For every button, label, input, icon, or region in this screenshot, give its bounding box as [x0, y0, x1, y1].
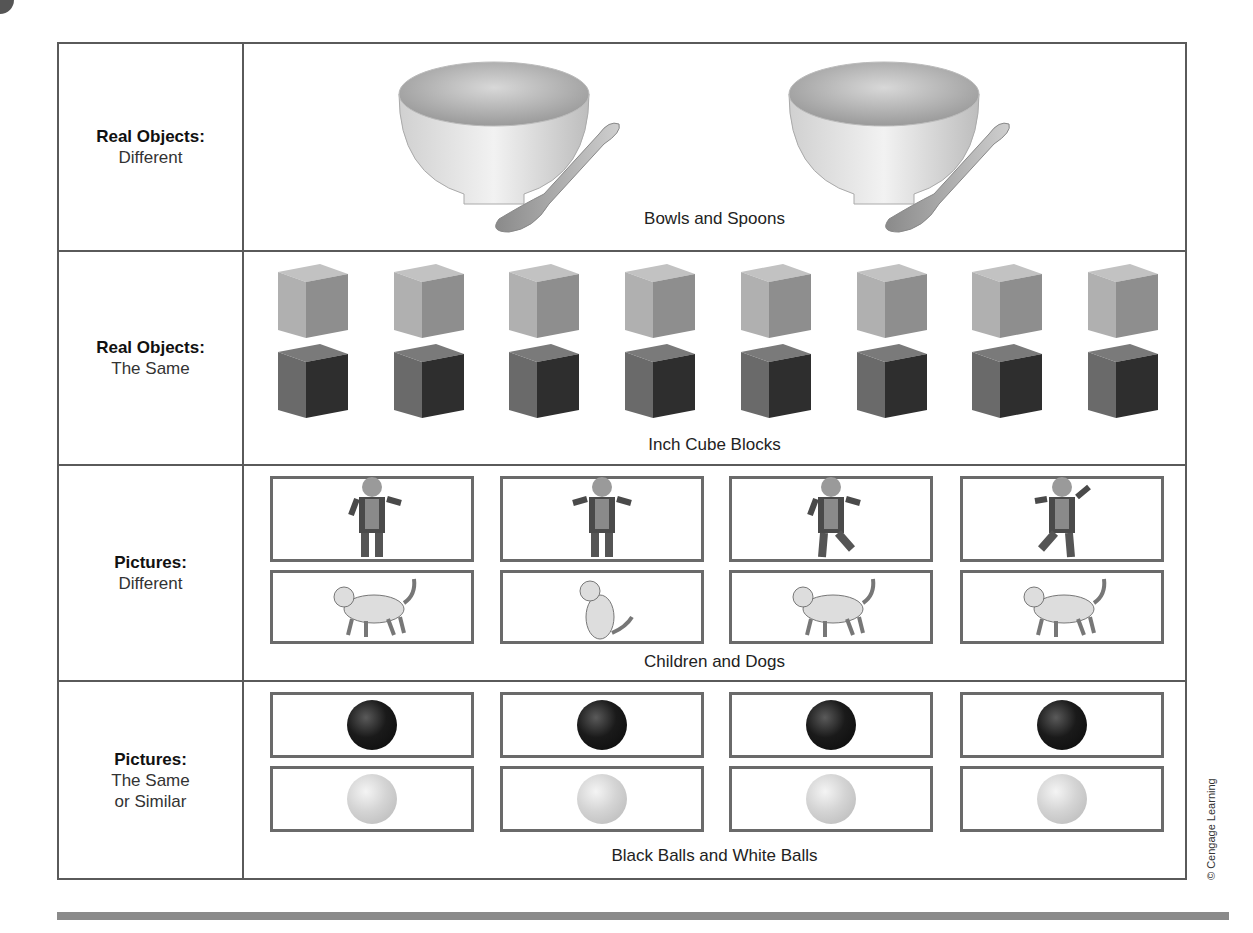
light-cube-icon [737, 260, 813, 338]
row-label-sub: The Same [111, 358, 189, 379]
row-label-sub-line2: or Similar [115, 791, 187, 812]
light-cube-icon [390, 260, 466, 338]
bottom-rule [57, 912, 1229, 920]
dark-cube-icon [853, 340, 929, 418]
row-content: Inch Cube Blocks [244, 252, 1185, 464]
dog-running-icon [1012, 573, 1112, 641]
row-label: Real Objects: The Same [59, 252, 244, 464]
row-content: Children and Dogs [244, 466, 1185, 680]
black-ball-icon [347, 700, 397, 750]
white-ball-icon [577, 774, 627, 824]
black-ball-icon [577, 700, 627, 750]
row-caption: Black Balls and White Balls [244, 846, 1185, 866]
picture-card [729, 692, 933, 758]
row-label-sub: Different [119, 147, 183, 168]
dark-cube-icon [505, 340, 581, 418]
light-cube-icon [621, 260, 697, 338]
row-label: Pictures: The Same or Similar [59, 682, 244, 878]
row-real-objects-same: Real Objects: The Same Inch Cube Blocks [59, 252, 1185, 466]
row-label-title: Pictures: [114, 552, 187, 573]
picture-card [960, 692, 1164, 758]
light-cube-icon [1084, 260, 1160, 338]
dark-cube-icon [1084, 340, 1160, 418]
picture-card [500, 476, 704, 562]
light-cube-icon [274, 260, 350, 338]
row-label-sub: Different [119, 573, 183, 594]
dark-cube-icon [274, 340, 350, 418]
row-real-objects-different: Real Objects: Different Bowls and Spoons [59, 44, 1185, 252]
picture-card [960, 570, 1164, 644]
child-jumping-icon [1025, 475, 1099, 563]
white-ball-icon [1037, 774, 1087, 824]
row-label-title: Pictures: [114, 749, 187, 770]
dark-cube-icon [390, 340, 466, 418]
light-cube-icon [505, 260, 581, 338]
picture-card [729, 570, 933, 644]
row-label: Pictures: Different [59, 466, 244, 680]
picture-card [270, 766, 474, 832]
row-pictures-different: Pictures: Different Children and Dogs [59, 466, 1185, 682]
picture-card [960, 766, 1164, 832]
row-caption: Children and Dogs [244, 652, 1185, 672]
row-content: Black Balls and White Balls [244, 682, 1185, 878]
picture-card [500, 570, 704, 644]
row-label-title: Real Objects: [96, 337, 205, 358]
dog-sitting-icon [552, 573, 652, 641]
picture-card [960, 476, 1164, 562]
picture-card [270, 692, 474, 758]
row-caption: Inch Cube Blocks [244, 435, 1185, 455]
page-corner-mark [0, 0, 14, 14]
picture-card [729, 476, 933, 562]
picture-card [500, 766, 704, 832]
row-label: Real Objects: Different [59, 44, 244, 250]
row-caption: Bowls and Spoons [244, 209, 1185, 229]
comparison-table: Real Objects: Different Bowls and Spoons [57, 42, 1187, 880]
dog-leaping-icon [781, 573, 881, 641]
child-arm-out-icon [335, 475, 409, 563]
row-pictures-same-or-similar: Pictures: The Same or Similar Black Ball… [59, 682, 1185, 878]
white-ball-icon [347, 774, 397, 824]
row-label-title: Real Objects: [96, 126, 205, 147]
black-ball-icon [1037, 700, 1087, 750]
light-cube-icon [853, 260, 929, 338]
child-walking-icon [794, 475, 868, 563]
dark-cube-icon [968, 340, 1044, 418]
row-label-sub-line1: The Same [111, 770, 189, 791]
dog-walking-icon [322, 573, 422, 641]
child-arms-out-icon [565, 475, 639, 563]
black-ball-icon [806, 700, 856, 750]
row-content: Bowls and Spoons [244, 44, 1185, 250]
picture-card [729, 766, 933, 832]
dark-cube-icon [737, 340, 813, 418]
copyright-notice: © Cengage Learning [1205, 778, 1217, 880]
dark-cube-icon [621, 340, 697, 418]
picture-card [270, 476, 474, 562]
picture-card [270, 570, 474, 644]
picture-card [500, 692, 704, 758]
light-cube-icon [968, 260, 1044, 338]
white-ball-icon [806, 774, 856, 824]
